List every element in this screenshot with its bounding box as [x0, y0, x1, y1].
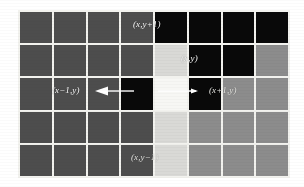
- grid-cell: [54, 78, 86, 109]
- grid-cell: [256, 45, 288, 76]
- grid-cell: [256, 112, 288, 143]
- grid-cell: [121, 45, 153, 76]
- grid-cell: [256, 78, 288, 109]
- grid-cell: [121, 12, 153, 43]
- grid-cell: [223, 112, 255, 143]
- grid-cell: [88, 145, 120, 176]
- grid-cell: [189, 12, 221, 43]
- grid-cell: [20, 12, 52, 43]
- grid-cell: [155, 45, 187, 76]
- grid-cell: [54, 112, 86, 143]
- pixel-grid: [18, 10, 290, 178]
- grid-cell: [20, 78, 52, 109]
- grid-cell: [223, 45, 255, 76]
- grid-cell: [88, 45, 120, 76]
- grid-cell: [189, 145, 221, 176]
- grid-cell: [20, 112, 52, 143]
- grid-cell: [256, 145, 288, 176]
- grid-cell-left-neighbor: [121, 78, 153, 109]
- grid-cell: [88, 78, 120, 109]
- grid-cell: [20, 145, 52, 176]
- grid-cell: [223, 78, 255, 109]
- grid-cell: [121, 145, 153, 176]
- grid-cell: [54, 45, 86, 76]
- grid-cell: [54, 12, 86, 43]
- grid-cell: [223, 145, 255, 176]
- grid-cell: [54, 145, 86, 176]
- grid-cell: [121, 112, 153, 143]
- grid-cell-center: [189, 45, 221, 76]
- grid-cell: [155, 145, 187, 176]
- figure-canvas: (x,y+1) (x,y) (x−1,y) (x+1,y) (x,y−1): [0, 0, 304, 187]
- grid-cell-origin: [155, 78, 187, 109]
- grid-cell: [223, 12, 255, 43]
- grid-cell: [88, 12, 120, 43]
- grid-cell: [20, 45, 52, 76]
- grid-cell-right-neighbor: [189, 78, 221, 109]
- grid-cell: [88, 112, 120, 143]
- grid-cell: [155, 112, 187, 143]
- grid-cell: [256, 12, 288, 43]
- grid-cell: [155, 12, 187, 43]
- grid-cell: [189, 112, 221, 143]
